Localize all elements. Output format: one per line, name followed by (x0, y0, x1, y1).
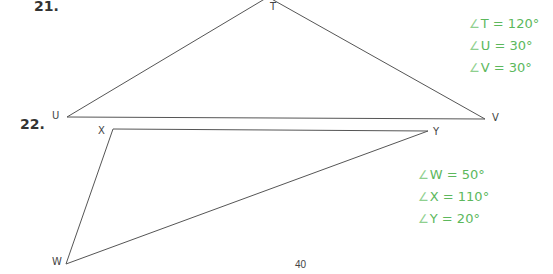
problem-number-22: 22. (20, 116, 45, 132)
vertex-label-u: U (52, 110, 59, 121)
triangle-wxy (66, 129, 428, 264)
angle-answer: ∠X = 110° (418, 186, 489, 208)
angle-icon: ∠ (418, 168, 429, 182)
vertex-label-x: X (98, 125, 105, 136)
triangle-tuv (67, 0, 485, 119)
angle-icon: ∠ (469, 17, 480, 31)
angle-answers-22: ∠W = 50° ∠X = 110° ∠Y = 20° (418, 164, 489, 230)
angle-answers-21: ∠T = 120° ∠U = 30° ∠V = 30° (469, 13, 539, 79)
angle-answer: ∠T = 120° (469, 13, 539, 35)
vertex-label-t: T (270, 1, 276, 12)
angle-answer: ∠U = 30° (469, 35, 539, 57)
angle-answer: ∠W = 50° (418, 164, 489, 186)
angle-icon: ∠ (418, 190, 429, 204)
vertex-label-w: W (52, 256, 62, 267)
vertex-label-v: V (492, 112, 499, 123)
angle-icon: ∠ (469, 61, 480, 75)
vertex-label-y: Y (433, 126, 439, 137)
page-number: 40 (295, 259, 306, 270)
angle-answer: ∠V = 30° (469, 57, 539, 79)
problem-number-21: 21. (34, 0, 59, 14)
angle-icon: ∠ (418, 212, 429, 226)
angle-answer: ∠Y = 20° (418, 208, 489, 230)
angle-icon: ∠ (469, 39, 480, 53)
